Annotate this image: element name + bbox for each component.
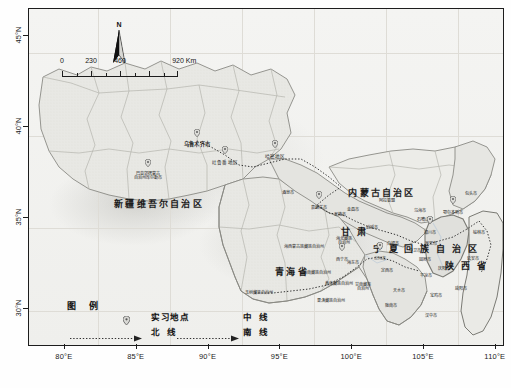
x-axis-tick [495,344,496,349]
scale-bar-tick-label: 230 [85,57,97,64]
site-marker-icon[interactable] [316,185,322,203]
prefecture-label: 定西市 [381,269,393,273]
province-label: 陕 西 省 [445,262,488,271]
prefecture-label: 乌海市 [414,209,426,213]
x-axis-label: 80°E [55,352,72,361]
site-marker-icon[interactable] [450,190,456,208]
scale-bar-tick-label: 920 Km [172,57,196,64]
legend-site-label: 实习地点 [151,310,189,322]
legend: 图 例 实习地点 中 线 北 线 [65,299,280,339]
x-axis-label: 105°E [412,352,434,361]
prefecture-label: 庆阳市 [438,267,450,271]
prefecture-label: 巴音郭楞蒙古自治州库尔勒市 [134,172,163,181]
site-marker-icon[interactable] [272,134,278,152]
prefecture-label: 黄南藏族自治州 [325,282,354,286]
prefecture-label: 榆林市 [473,231,485,235]
x-axis-label: 100°E [340,352,362,361]
scale-bar-tick-label: 460 [114,57,126,64]
map-figure: 新疆维吾尔自治区内蒙古自治区青海省甘 肃陕 西 省宁 夏 回 族 自 治 区乌鲁… [0,0,511,388]
prefecture-label: 中卫市 [409,249,421,253]
legend-middle-route-label: 中 线 [243,310,271,322]
prefecture-label: 银川市 [424,231,436,235]
x-axis-tick [136,344,137,349]
prefecture-label: 汉中市 [425,314,437,318]
prefecture-label: 甘南藏族自治州 [355,283,371,292]
site-marker-icon [123,311,130,329]
y-axis-label: 30°N [14,299,23,316]
site-marker-icon[interactable] [377,236,383,254]
prefecture-label: 吴忠市 [425,242,437,246]
legend-south-route-label: 南 线 [243,325,271,337]
y-axis-tick [23,308,28,309]
site-marker-icon[interactable] [339,237,345,255]
y-axis-tick [23,217,28,218]
prefecture-label: 平凉市 [420,274,432,278]
legend-north-route-label: 北 线 [151,325,179,337]
prefecture-label: 乌鲁木齐市 [184,142,210,147]
x-axis-label: 110°E [484,352,505,361]
x-axis-tick [351,344,352,349]
scale-bar-tick-label: 0 [60,57,64,64]
province-label: 新疆维吾尔自治区 [114,200,204,209]
north-arrow-letter: N [108,21,130,28]
scale-bar-numbers: 0230460920 Km [62,57,188,68]
x-axis-tick [208,344,209,349]
x-axis-tick [279,344,280,349]
site-marker-icon[interactable] [222,140,228,158]
x-axis-label: 95°E [271,352,288,361]
prefecture-label: 玉树藏族自治州 [245,291,274,295]
x-axis-label: 90°E [199,352,216,361]
prefecture-label: 张掖市 [334,213,346,217]
x-axis-tick [423,344,424,349]
y-axis-label: 45°N [14,27,23,44]
prefecture-label: 陇南市 [385,304,397,308]
x-axis-label: 85°E [127,352,144,361]
prefecture-label: 固原市 [419,258,431,262]
scale-bar: 0230460920 Km [62,57,188,79]
prefecture-label: 嘉峪关市 [311,206,327,210]
scale-bar-ruler [62,71,178,77]
legend-title: 图 例 [67,299,103,312]
y-axis-label: 35°N [14,208,23,225]
x-axis-tick [64,344,65,349]
map-canvas[interactable]: 新疆维吾尔自治区内蒙古自治区青海省甘 肃陕 西 省宁 夏 回 族 自 治 区乌鲁… [28,8,504,346]
prefecture-label: 吐鲁番地区 [212,161,238,166]
site-marker-icon[interactable] [427,210,433,228]
prefecture-label: 白银市 [387,242,399,246]
prefecture-label: 海南藏族自治州 [303,271,332,275]
prefecture-label: 金昌市 [347,208,359,212]
prefecture-label: 哈密地区 [265,155,286,160]
prefecture-label: 海东市 [347,261,359,265]
prefecture-label: 鄂尔多斯市 [443,211,464,215]
site-marker-icon[interactable] [145,153,151,171]
legend-north-route-symbol [70,328,144,346]
prefecture-label: 阿拉善盟 [379,199,395,203]
prefecture-label: 延安市 [467,257,479,261]
y-axis-label: 40°N [14,118,23,135]
legend-south-route-symbol [177,328,241,346]
prefecture-label: 咸阳市 [455,287,467,291]
prefecture-label: 酒泉市 [282,191,294,195]
prefecture-label: 武威市 [366,226,378,230]
site-marker-icon[interactable] [194,123,200,141]
prefecture-label: 海西蒙古族藏族自治州 [284,245,325,249]
province-label: 宁 夏 回 族 自 治 区 [373,245,480,254]
prefecture-label: 果洛藏族自治州 [317,299,346,303]
prefecture-label: 兰州市 [374,257,386,261]
prefecture-label: 天水市 [393,289,405,293]
prefecture-label: 包头市 [465,192,477,196]
y-axis-tick [23,126,28,127]
y-axis-tick [23,35,28,36]
prefecture-label: 宝鸡市 [430,294,442,298]
